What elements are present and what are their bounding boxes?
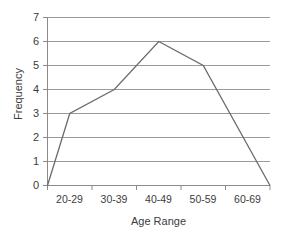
x-axis-tick-label-20-29: 20-29 [48, 194, 92, 205]
x-axis-tick-label-30-39: 30-39 [92, 194, 136, 205]
y-axis-tick-label: 1 [25, 156, 39, 167]
x-axis-tick-label-60-69: 60-69 [226, 194, 270, 205]
y-axis-tick-label: 2 [25, 132, 39, 143]
y-axis-tick-label: 6 [25, 36, 39, 47]
y-axis-tick-label: 4 [25, 84, 39, 95]
y-axis-tick-label: 7 [25, 12, 39, 23]
y-axis-tick-label: 5 [25, 60, 39, 71]
y-axis-title: Frequency [12, 44, 24, 144]
y-axis-tick-label: 0 [25, 180, 39, 191]
x-axis-title: Age Range [47, 215, 270, 227]
x-axis-ticks [48, 186, 271, 191]
x-axis-tick-label-40-49: 40-49 [137, 194, 181, 205]
y-axis-tick-label: 3 [25, 108, 39, 119]
frequency-polygon-chart: 7 6 5 4 3 2 1 0 20-29 30-39 40-49 50-59 … [0, 0, 284, 239]
x-axis-tick-label-50-59: 50-59 [181, 194, 225, 205]
y-axis-ticks [43, 18, 47, 186]
